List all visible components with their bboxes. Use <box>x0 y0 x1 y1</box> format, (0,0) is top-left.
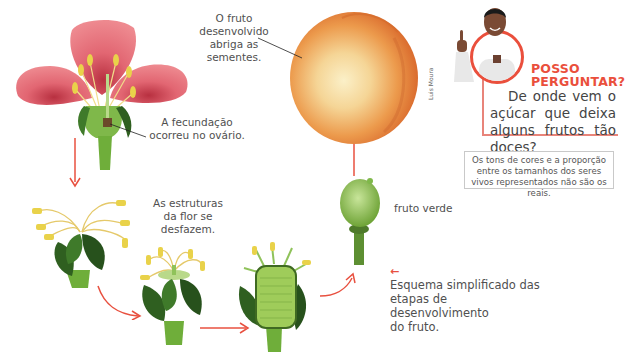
green-fruit-illustration <box>336 175 386 265</box>
ripe-fruit-label-line2: desenvolvido <box>192 25 276 38</box>
green-fruit-icon <box>336 175 386 265</box>
schema-caption-line2: etapas de desenvolvimento <box>390 292 540 320</box>
arrow-left-icon: ← <box>390 266 540 278</box>
wilting-flower-illustration <box>28 192 133 288</box>
box-left-border <box>482 72 484 135</box>
avatar <box>470 30 524 84</box>
fecundation-label-line1: A fecundação <box>142 116 252 129</box>
illustration-credit: Luis Moura <box>427 67 434 100</box>
posso-perguntar-box: POSSO PERGUNTAR? De onde vem o açúcar qu… <box>452 0 620 140</box>
student-avatar-icon <box>473 33 521 81</box>
proportion-note: Os tons de cores e a proporção entre os … <box>464 151 614 189</box>
fecundation-label: A fecundação ocorreu no ovário. <box>142 116 252 142</box>
peach-icon <box>284 8 422 146</box>
posso-perguntar-title: POSSO PERGUNTAR? <box>531 62 625 88</box>
flower-icon <box>10 10 190 170</box>
wilting-flower-icon <box>28 192 133 288</box>
structures-label-line1: As estruturas <box>148 197 228 210</box>
arrow-down-icon <box>68 138 82 188</box>
structures-label-line3: desfazem. <box>148 223 228 236</box>
curved-arrow-up-icon <box>318 270 358 300</box>
ripe-fruit-illustration <box>284 8 422 146</box>
ovary-icon <box>234 242 314 352</box>
swelling-ovary-illustration <box>234 242 314 352</box>
title-line2: PERGUNTAR? <box>531 75 625 88</box>
green-fruit-label: fruto verde <box>394 202 452 215</box>
posso-perguntar-question: De onde vem o açúcar que deixa alguns fr… <box>490 88 616 156</box>
ripe-fruit-label-line3: abriga as <box>192 38 276 51</box>
ripe-fruit-label-line4: sementes. <box>192 51 276 64</box>
schema-caption: ← Esquema simplificado das etapas de des… <box>390 266 540 334</box>
flower-illustration <box>10 10 190 170</box>
schema-caption-line3: do fruto. <box>390 320 540 334</box>
structures-label: As estruturas da flor se desfazem. <box>148 197 228 236</box>
ripe-fruit-label: O fruto desenvolvido abriga as sementes. <box>192 12 276 64</box>
structures-label-line2: da flor se <box>148 210 228 223</box>
fecundation-label-line2: ocorreu no ovário. <box>142 129 252 142</box>
student-head <box>480 4 510 38</box>
raised-hand <box>452 30 476 82</box>
ripe-fruit-label-line1: O fruto <box>192 12 276 25</box>
schema-caption-line1: Esquema simplificado das <box>390 278 540 292</box>
